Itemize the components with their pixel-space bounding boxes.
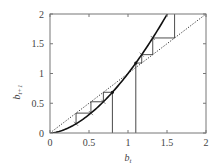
map-curve bbox=[50, 8, 171, 133]
plot-area bbox=[50, 0, 206, 133]
y-axis-label: bt+1 bbox=[11, 84, 24, 99]
axes: 00.511.5200.511.52 bbox=[32, 9, 209, 149]
y-tick-label: 2 bbox=[39, 9, 44, 20]
x-tick-label: 0.5 bbox=[83, 137, 96, 148]
x-tick-label: 0 bbox=[48, 137, 53, 148]
cobweb-upper-marker bbox=[173, 0, 177, 3]
plot-clip-group bbox=[50, 0, 206, 133]
y-tick-label: 1 bbox=[39, 68, 44, 79]
y-tick-label: 0 bbox=[39, 128, 44, 139]
y-tick-label: 1.5 bbox=[32, 38, 45, 49]
x-axis-label: bt bbox=[125, 152, 133, 165]
x-tick-label: 2 bbox=[204, 137, 209, 148]
x-tick-label: 1 bbox=[126, 137, 131, 148]
x-tick-label: 1.5 bbox=[161, 137, 174, 148]
y-tick-label: 0.5 bbox=[32, 98, 45, 109]
cobweb-chart: 00.511.5200.511.52 bt bt+1 bbox=[0, 0, 219, 168]
